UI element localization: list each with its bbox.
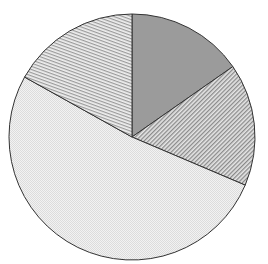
pie-slices bbox=[9, 14, 255, 260]
pie-chart bbox=[0, 0, 268, 264]
